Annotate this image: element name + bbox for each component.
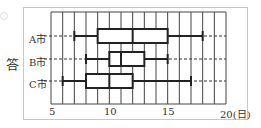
boxplot-chart [0,0,261,128]
